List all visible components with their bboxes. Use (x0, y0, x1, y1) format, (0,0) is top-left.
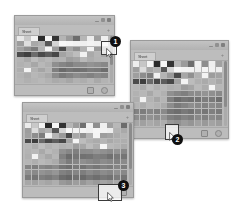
close-button[interactable] (107, 18, 111, 22)
grid-cell[interactable] (133, 91, 139, 97)
grid-cell[interactable] (147, 67, 153, 73)
grid-cell[interactable] (73, 57, 80, 62)
grid-cell[interactable] (195, 79, 201, 85)
grid-cell[interactable] (209, 61, 215, 67)
grid-cell[interactable] (86, 128, 92, 133)
grid-cell[interactable] (73, 62, 80, 67)
grid-cell[interactable] (73, 170, 79, 175)
grid-cell[interactable] (80, 175, 86, 180)
grid-cell[interactable] (45, 165, 51, 170)
grid-cell[interactable] (167, 115, 173, 121)
grid-cell[interactable] (195, 73, 201, 79)
grid-cell[interactable] (80, 57, 87, 62)
grid-cell[interactable] (209, 91, 215, 97)
grid-cell[interactable] (188, 97, 194, 103)
grid-cell[interactable] (73, 149, 79, 154)
grid-cell[interactable] (32, 128, 38, 133)
grid-cell[interactable] (73, 78, 80, 83)
grid-cell[interactable] (167, 73, 173, 79)
grid-cell[interactable] (174, 85, 180, 91)
grid-cell[interactable] (181, 79, 187, 85)
grid-cell[interactable] (93, 128, 99, 133)
grid-cell[interactable] (195, 97, 201, 103)
grid-cell[interactable] (24, 62, 31, 67)
grid-cell[interactable] (73, 175, 79, 180)
grid-cell[interactable] (216, 85, 223, 91)
grid-cell[interactable] (73, 165, 79, 170)
grid-cell[interactable] (80, 52, 87, 57)
grid-cell[interactable] (174, 79, 180, 85)
grid-cell[interactable] (25, 139, 31, 144)
grid-cell[interactable] (52, 57, 59, 62)
grid-cell[interactable] (73, 144, 79, 149)
grid-cell[interactable] (147, 120, 153, 126)
grid-cell[interactable] (52, 36, 59, 41)
grid-cell[interactable] (38, 62, 45, 67)
grid-cell[interactable] (216, 115, 223, 121)
grid-cell[interactable] (154, 61, 160, 67)
grid-cell[interactable] (114, 144, 120, 149)
window-1-add-tab-button[interactable]: + (107, 27, 110, 33)
grid-cell[interactable] (121, 154, 127, 159)
grid-cell[interactable] (80, 78, 87, 83)
grid-cell[interactable] (147, 91, 153, 97)
grid-cell[interactable] (45, 154, 51, 159)
grid-cell[interactable] (86, 175, 92, 180)
grid-cell[interactable] (133, 79, 139, 85)
grid-cell[interactable] (133, 73, 139, 79)
grid-cell[interactable] (52, 47, 59, 52)
grid-cell[interactable] (195, 91, 201, 97)
grid-cell[interactable] (161, 73, 167, 79)
grid-cell[interactable] (188, 115, 194, 121)
grid-cell[interactable] (80, 149, 86, 154)
grid-cell[interactable] (52, 165, 58, 170)
grid-cell[interactable] (17, 41, 24, 46)
grid-cell[interactable] (25, 149, 31, 154)
grid-cell[interactable] (121, 133, 127, 138)
grid-cell[interactable] (167, 91, 173, 97)
grid-cell[interactable] (73, 128, 79, 133)
maximize-button[interactable] (101, 18, 105, 22)
grid-cell[interactable] (45, 47, 52, 52)
grid-cell[interactable] (133, 61, 139, 67)
grid-cell[interactable] (202, 91, 208, 97)
grid-cell[interactable] (86, 170, 92, 175)
grid-cell[interactable] (154, 67, 160, 73)
grid-cell[interactable] (161, 103, 167, 109)
grid-cell[interactable] (80, 62, 87, 67)
window-2-sheet-tab[interactable]: Sheet (134, 52, 156, 60)
minimize-button[interactable] (209, 46, 213, 47)
grid-cell[interactable] (31, 68, 38, 73)
grid-cell[interactable] (52, 170, 58, 175)
grid-cell[interactable] (174, 73, 180, 79)
grid-cell[interactable] (107, 139, 113, 144)
grid-cell[interactable] (154, 109, 160, 115)
grid-cell[interactable] (100, 139, 106, 144)
grid-cell[interactable] (17, 36, 24, 41)
grid-cell[interactable] (121, 139, 127, 144)
grid-cell[interactable] (107, 133, 113, 138)
grid-cell[interactable] (32, 149, 38, 154)
grid-cell[interactable] (167, 97, 173, 103)
window-1-cell-grid[interactable] (17, 36, 108, 83)
grid-cell[interactable] (31, 62, 38, 67)
grid-cell[interactable] (93, 123, 99, 128)
grid-cell[interactable] (52, 62, 59, 67)
grid-cell[interactable] (100, 159, 106, 164)
grid-cell[interactable] (80, 139, 86, 144)
grid-cell[interactable] (59, 175, 65, 180)
grid-cell[interactable] (66, 41, 73, 46)
grid-cell[interactable] (59, 78, 66, 83)
zoom-icon[interactable] (101, 87, 108, 94)
grid-cell[interactable] (174, 61, 180, 67)
grid-cell[interactable] (167, 67, 173, 73)
grid-cell[interactable] (195, 61, 201, 67)
grid-cell[interactable] (32, 154, 38, 159)
grid-cell[interactable] (94, 57, 101, 62)
grid-cell[interactable] (114, 123, 120, 128)
grid-cell[interactable] (39, 149, 45, 154)
grid-cell[interactable] (121, 165, 127, 170)
grid-cell[interactable] (66, 180, 72, 185)
grid-cell[interactable] (202, 103, 208, 109)
grid-cell[interactable] (107, 170, 113, 175)
